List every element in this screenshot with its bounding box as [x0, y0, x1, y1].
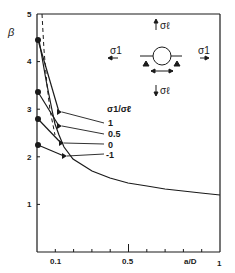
- legend-entry-m1: -1: [106, 150, 114, 160]
- start-markers: [35, 37, 41, 148]
- width-arrow-left-head: [151, 69, 155, 73]
- y-tick-label-3: 3: [27, 105, 32, 114]
- y-tick-label-1: 1: [27, 200, 32, 209]
- marker-dot-m1: [35, 142, 41, 148]
- x-tick-label-0.5: 0.5: [122, 257, 134, 266]
- legend-entry-0.5: 0.5: [108, 129, 121, 139]
- y-axis-title: β: [7, 26, 15, 38]
- series-0.5-line: [38, 92, 59, 126]
- width-arrow-right-head: [169, 69, 173, 73]
- y-tick-label-4: 4: [27, 57, 32, 66]
- legend-leaders: [62, 112, 104, 156]
- x-tick-label-0.1: 0.1: [50, 257, 62, 266]
- hole-circle: [153, 47, 171, 65]
- inset-label-bottom: σℓ: [160, 85, 170, 96]
- legend-entry-1: 1: [108, 118, 113, 128]
- marker-dot-1: [35, 37, 41, 43]
- marker-dot-0.5: [35, 89, 41, 95]
- inset-label-left: σ1: [110, 45, 122, 56]
- inset-diagram: [108, 19, 209, 96]
- series-m1-line: [38, 145, 64, 156]
- marker-triangle-m1: [62, 153, 67, 159]
- support-right: [174, 61, 180, 66]
- x-tick-label-1: 1: [217, 259, 222, 268]
- legend-entry-0: 0: [108, 140, 113, 150]
- support-left: [143, 61, 149, 66]
- marker-triangle-0.5: [57, 123, 62, 129]
- x-ticks: [55, 244, 201, 252]
- inset-label-right: σ1: [198, 45, 210, 56]
- x-axis-title: a/D: [184, 257, 197, 266]
- legend-title: σ1/σℓ: [107, 104, 132, 114]
- y-tick-label-5: 5: [27, 10, 32, 19]
- inset-label-top: σℓ: [160, 20, 170, 31]
- envelope-curve: [39, 40, 220, 195]
- y-tick-label-2: 2: [27, 153, 32, 162]
- chart: 5 4 3 2 1 β 0.1 0.5 a/D 1: [0, 0, 235, 273]
- marker-dot-0: [35, 116, 41, 122]
- plot-frame: [37, 14, 220, 252]
- marker-triangle-1: [57, 109, 62, 115]
